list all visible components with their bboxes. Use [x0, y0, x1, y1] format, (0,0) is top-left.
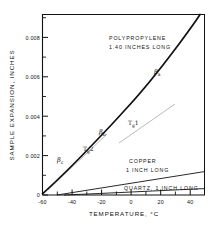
polypropylene-label-line2: 1.40 INCHES LONG [109, 44, 171, 50]
x-tick-label-40: 40 [187, 199, 193, 205]
svg-text:βb: βb [98, 128, 106, 137]
copper-label-line2: 1 INCH LONG [126, 167, 169, 173]
y-tick-label-0: 0 [37, 192, 40, 198]
x-axis-title: TEMPERATURE, °C [89, 210, 159, 217]
beta-c-subscript: c [61, 160, 64, 165]
x-tick-label-minus40: -40 [68, 199, 76, 205]
beta-b-label: βb [98, 128, 106, 137]
x-tick-label-20: 20 [157, 199, 163, 205]
x-tick-label-minus20: -20 [97, 199, 105, 205]
beta-b-subscript: b [103, 132, 106, 137]
svg-text:βc: βc [56, 156, 64, 165]
quartz-label-line1: QUARTZ, 1 INCH LONG [124, 185, 199, 191]
y-axis-major-ticks [43, 37, 49, 195]
chart-svg: 0 0.002 0.004 0.006 0.008 -60 -40 -20 0 … [0, 0, 223, 230]
beta-c-label: βc [56, 156, 64, 165]
y-tick-label-0006: 0.006 [26, 74, 41, 80]
y-tick-label-0004: 0.004 [26, 114, 41, 120]
polypropylene-label-line1: POLYPROPYLENE [109, 35, 166, 41]
expansion-vs-temperature-figure: 0 0.002 0.004 0.006 0.008 -60 -40 -20 0 … [0, 0, 223, 230]
tg1-number: 1 [135, 119, 139, 126]
y-axis-title: SAMPLE EXPANSION, INCHES [8, 50, 15, 161]
tg-1-label: Tg1 [128, 119, 139, 128]
y-tick-label-0002: 0.002 [26, 153, 41, 159]
copper-label-line1: COPPER [129, 158, 156, 164]
tg2-number: 2 [90, 145, 94, 152]
polypropylene-curve [43, 15, 201, 194]
y-tick-label-0008: 0.008 [26, 35, 41, 41]
x-tick-label-0: 0 [129, 199, 132, 205]
x-tick-label-minus60: -60 [38, 199, 46, 205]
tangent-lines [48, 104, 175, 190]
beta-a-subscript: a [158, 72, 161, 77]
svg-text:Tg1: Tg1 [128, 119, 139, 128]
